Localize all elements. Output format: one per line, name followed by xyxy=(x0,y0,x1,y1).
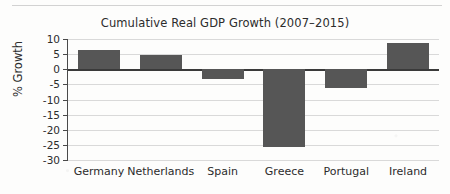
bar-slot xyxy=(68,39,130,160)
chart-figure: Cumulative Real GDP Growth (2007–2015) %… xyxy=(0,0,450,194)
y-axis-tick-label: -20 xyxy=(20,124,60,136)
y-axis-tick-label: -25 xyxy=(20,139,60,151)
y-axis-tick-label: 5 xyxy=(20,48,60,60)
y-axis-tick-label: 0 xyxy=(20,63,60,75)
x-axis-tick-label: Greece xyxy=(265,165,304,178)
y-axis-tick-mark xyxy=(63,160,68,161)
x-axis-tick-label: Portugal xyxy=(323,165,369,178)
page-top-rule xyxy=(12,5,442,6)
x-axis-tick-label: Ireland xyxy=(389,165,427,178)
bar-slot xyxy=(254,39,316,160)
bars-group xyxy=(68,39,439,160)
x-axis-tick-label: Netherlands xyxy=(127,165,194,178)
bar-slot xyxy=(377,39,439,160)
y-axis-tick-label: -30 xyxy=(20,154,60,166)
x-axis-tick-label: Germany xyxy=(74,165,125,178)
chart-title: Cumulative Real GDP Growth (2007–2015) xyxy=(0,16,450,30)
bar xyxy=(387,43,429,70)
y-axis-tick-label: -10 xyxy=(20,94,60,106)
y-axis-tick-label: 10 xyxy=(20,33,60,45)
bar-slot xyxy=(315,39,377,160)
bar xyxy=(78,50,120,69)
bar xyxy=(202,69,244,78)
bar xyxy=(325,69,367,88)
plot-area: 1050-5-10-15-20-25-30 GermanyNetherlands… xyxy=(67,39,439,161)
bar-slot xyxy=(192,39,254,160)
bar xyxy=(263,69,305,147)
x-axis-tick-label: Spain xyxy=(207,165,238,178)
gridline xyxy=(68,160,439,161)
y-axis-tick-label: -15 xyxy=(20,109,60,121)
bar xyxy=(140,55,182,69)
bar-slot xyxy=(130,39,192,160)
y-axis-tick-label: -5 xyxy=(20,78,60,90)
